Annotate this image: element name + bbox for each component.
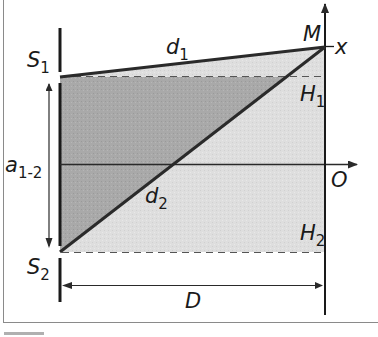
footer-bar: [4, 332, 44, 335]
label-m: M: [303, 22, 321, 46]
label-s2: S2: [27, 255, 50, 284]
label-x: x: [334, 35, 348, 59]
label-s1: S1: [27, 48, 50, 77]
interference-diagram: S1 d1 M x H1 a1-2 O d2 H2 S2 D: [0, 0, 378, 337]
label-d1: d1: [166, 35, 189, 64]
distance-d-arrowhead-left: [62, 282, 72, 289]
label-o: O: [331, 168, 348, 192]
slit-separation-arrowhead-bottom: [46, 238, 53, 248]
label-distance-d: D: [185, 289, 201, 313]
label-a12: a1-2: [5, 153, 42, 182]
